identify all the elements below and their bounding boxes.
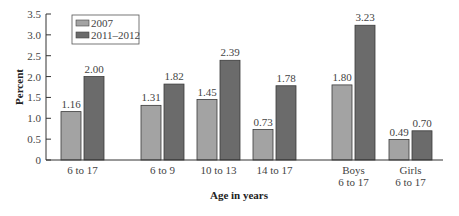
- y-tick-label: 3.5: [27, 8, 41, 20]
- y-tick-label: 1.0: [27, 112, 41, 124]
- bar-2011-2012: [355, 25, 375, 160]
- bar-2007: [332, 85, 352, 160]
- bar-value-label: 1.16: [61, 98, 81, 110]
- y-tick-label: 2.0: [27, 71, 41, 83]
- bar-value-label: 3.23: [355, 11, 375, 23]
- y-tick-label: 1.5: [27, 91, 41, 103]
- bar-value-label: 2.00: [84, 63, 104, 75]
- legend-swatch-2007: [76, 20, 89, 26]
- bar-2007: [389, 140, 409, 160]
- bar-value-label: 1.31: [141, 91, 160, 103]
- bar-2007: [197, 100, 217, 160]
- x-category-label: 6 to 17: [338, 176, 369, 188]
- legend-label-2011-2012: 2011–2012: [91, 29, 140, 41]
- x-category-label: 6 to 9: [150, 164, 176, 176]
- x-category-label: Girls: [400, 164, 422, 176]
- y-axis: 00.51.01.52.02.53.03.5: [27, 8, 51, 166]
- bar-2011-2012: [276, 86, 296, 160]
- y-axis-title: Percent: [13, 69, 25, 105]
- x-category-label: 14 to 17: [256, 164, 293, 176]
- bar-value-label: 1.78: [276, 72, 296, 84]
- x-category-label: Boys: [342, 164, 365, 176]
- bar-2007: [253, 130, 273, 160]
- y-tick-label: 2.5: [27, 50, 41, 62]
- legend-label-2007: 2007: [91, 17, 114, 29]
- bar-2007: [141, 105, 161, 160]
- y-tick-label: 0.5: [27, 133, 41, 145]
- bar-value-label: 0.49: [389, 126, 409, 138]
- x-category-label: 10 to 13: [200, 164, 237, 176]
- legend: 2007 2011–2012: [72, 15, 140, 44]
- bar-value-label: 1.45: [197, 86, 217, 98]
- y-tick-label: 3.0: [27, 29, 41, 41]
- x-axis-title: Age in years: [210, 189, 269, 201]
- legend-swatch-2011-2012: [76, 32, 89, 38]
- bar-value-label: 2.39: [220, 46, 240, 58]
- bar-2011-2012: [84, 77, 104, 160]
- bar-value-label: 0.73: [253, 116, 273, 128]
- x-category-label: 6 to 17: [67, 164, 98, 176]
- x-axis: 6 to 176 to 910 to 1314 to 17Boys6 to 17…: [46, 160, 443, 188]
- bar-2011-2012: [412, 131, 432, 160]
- bar-value-label: 0.70: [412, 117, 432, 129]
- bar-chart: 00.51.01.52.02.53.03.5 1.162.001.311.821…: [0, 0, 459, 216]
- bar-2011-2012: [164, 84, 184, 160]
- y-tick-label: 0: [36, 154, 42, 166]
- bar-value-label: 1.82: [164, 70, 183, 82]
- bar-2011-2012: [220, 60, 240, 160]
- bar-2007: [61, 112, 81, 160]
- bar-value-label: 1.80: [332, 71, 352, 83]
- x-category-label: 6 to 17: [395, 176, 426, 188]
